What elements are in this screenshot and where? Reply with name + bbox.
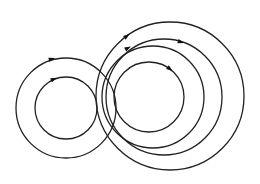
circle-right-inner — [114, 62, 184, 132]
arrow-icon — [123, 34, 130, 40]
circle-right-mid1 — [102, 46, 204, 148]
diagram-svg — [0, 0, 260, 184]
arrow-icon — [50, 78, 57, 83]
arrow-icon — [177, 39, 184, 43]
circle-left-outer — [16, 58, 116, 158]
circles-group — [16, 22, 244, 170]
circle-left-inner — [35, 77, 97, 139]
arrow-icon — [166, 65, 173, 71]
circle-diagram — [0, 0, 260, 184]
